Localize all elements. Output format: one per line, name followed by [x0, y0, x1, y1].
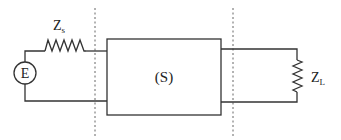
source-impedance-label: Zs	[53, 18, 66, 35]
load-impedance-main: Z	[311, 70, 320, 85]
circuit-diagram: E Zs (S) ZL	[0, 0, 341, 140]
load-impedance-resistor	[293, 60, 302, 92]
load-impedance-sub: L	[320, 77, 326, 87]
voltage-source: E	[14, 62, 36, 84]
right-bottom-wire	[221, 92, 297, 102]
load-impedance-label: ZL	[311, 70, 325, 87]
system-label: (S)	[155, 69, 173, 86]
source-impedance-main: Z	[53, 18, 62, 33]
voltage-source-label: E	[21, 66, 30, 81]
source-impedance-sub: s	[62, 25, 66, 35]
right-top-wire	[221, 49, 297, 60]
source-top-wire	[25, 51, 45, 62]
source-impedance-resistor	[45, 40, 86, 51]
